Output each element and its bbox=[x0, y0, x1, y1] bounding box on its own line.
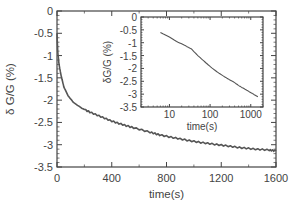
x-tick-label: 1000 bbox=[240, 109, 263, 120]
inset-y-axis-title: δG/G (%) bbox=[102, 41, 113, 83]
y-tick-label: -0.5 bbox=[120, 25, 138, 36]
main-y-axis-title: δ G/G (%) bbox=[4, 63, 16, 115]
y-tick-label: -3.5 bbox=[120, 102, 138, 113]
y-tick-label: -2.5 bbox=[120, 76, 138, 87]
x-tick-label: 0 bbox=[54, 172, 60, 184]
x-tick-label: 100 bbox=[202, 109, 219, 120]
y-tick-label: -1.5 bbox=[34, 72, 53, 84]
y-tick-label: -1 bbox=[128, 38, 137, 49]
x-tick-label: 400 bbox=[103, 172, 121, 184]
x-tick-label: 1600 bbox=[264, 172, 288, 184]
inset-x-axis-title: time(s) bbox=[187, 121, 218, 132]
y-tick-label: -1 bbox=[43, 50, 53, 62]
y-tick-label: -2 bbox=[128, 63, 137, 74]
main-x-axis-title: time(s) bbox=[149, 188, 184, 200]
x-tick-label: 1200 bbox=[209, 172, 233, 184]
inset-frame bbox=[141, 17, 263, 107]
y-tick-label: -3 bbox=[43, 139, 53, 151]
x-tick-label: 10 bbox=[164, 109, 176, 120]
y-tick-label: 0 bbox=[131, 12, 137, 23]
y-tick-label: -2 bbox=[43, 94, 53, 106]
y-tick-label: -0.5 bbox=[34, 27, 53, 39]
y-tick-label: -1.5 bbox=[120, 51, 138, 62]
y-tick-label: -2.5 bbox=[34, 116, 53, 128]
y-tick-label: -3 bbox=[128, 89, 137, 100]
x-tick-label: 800 bbox=[157, 172, 175, 184]
y-tick-label: -3.5 bbox=[34, 161, 53, 173]
chart: 0-0.5-1-1.5-2-2.5-3-3.5040080012001600ti… bbox=[0, 0, 291, 216]
y-tick-label: 0 bbox=[47, 5, 53, 17]
